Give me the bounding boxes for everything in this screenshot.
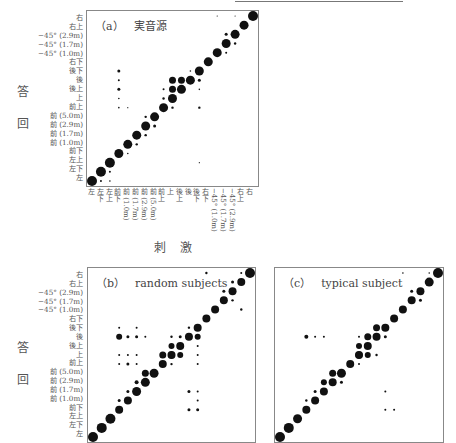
y-tick-label: 前上 [69, 103, 83, 110]
x-tick-label: 左 [87, 188, 94, 195]
x-tick-label: 前 (5.0m) [149, 188, 156, 220]
y-tick-label: 左 [76, 430, 83, 437]
y-tick-label: 左下 [69, 421, 83, 428]
panel-b-random-subjects: （b）random subjects [87, 267, 256, 443]
x-tick-label: 上 [166, 188, 173, 195]
x-tick-label: 右 [245, 188, 252, 195]
y-tick-label: 後 [76, 333, 83, 340]
x-tick-label: −45° (1.7m) [219, 188, 226, 232]
y-tick-label: 左上 [69, 156, 83, 163]
y-tick-label: −45° (1.0m) [38, 306, 83, 313]
y-tick-label: 右 [76, 14, 83, 21]
y-tick-label: 後下 [69, 67, 83, 74]
y-tick-label: 前 (2.9m) [50, 121, 83, 128]
bubble-matrix [88, 268, 255, 442]
y-tick-label: 後 [76, 76, 83, 83]
x-tick-label: 前 (1.7m) [131, 188, 138, 220]
y-tick-label: 左上 [69, 412, 83, 419]
panel-a-real-source: （a）実音源 [86, 10, 259, 187]
panel-c-typical-subject: （c）typical subject [274, 267, 444, 443]
y-tick-label: 前 (2.9m) [50, 377, 83, 384]
y-tick-label: 前 (5.0m) [50, 368, 83, 375]
y-tick-label: 右下 [69, 58, 83, 65]
y-axis-labels-b: 右右上−45° (2.9m)−45° (1.7m)−45° (1.0m)右下後下… [0, 267, 83, 443]
x-tick-label: 前 (2.9m) [140, 188, 147, 220]
x-tick-label: 前上 [157, 188, 164, 202]
y-tick-label: 前 (1.7m) [50, 386, 83, 393]
y-tick-label: 前下 [69, 404, 83, 411]
y-tick-label: 右下 [69, 315, 83, 322]
x-tick-label: 右下 [201, 188, 208, 202]
y-tick-label: −45° (1.0m) [38, 50, 83, 57]
y-tick-label: −45° (2.9m) [38, 32, 83, 39]
x-tick-label: 左下 [96, 188, 103, 202]
y-tick-label: −45° (1.7m) [38, 41, 83, 48]
y-axis-labels-a: 右右上−45° (2.9m)−45° (1.7m)−45° (1.0m)右下後下… [0, 10, 83, 186]
y-tick-label: 後下 [69, 324, 83, 331]
y-tick-label: 後上 [69, 342, 83, 349]
y-tick-label: 上 [76, 94, 83, 101]
y-tick-label: 前上 [69, 359, 83, 366]
y-tick-label: 前 (5.0m) [50, 112, 83, 119]
y-tick-label: 右上 [69, 23, 83, 30]
top-rule [235, 1, 403, 2]
y-tick-label: 前 (1.0m) [50, 139, 83, 146]
x-tick-label: 後 [184, 188, 191, 195]
y-tick-label: 上 [76, 351, 83, 358]
y-tick-label: 後上 [69, 85, 83, 92]
bubble-matrix [275, 268, 443, 442]
x-tick-label: 右上 [236, 188, 243, 202]
x-tick-label: −45° (1.0m) [210, 188, 217, 232]
x-tick-label: 後下 [192, 188, 199, 202]
bubble-matrix [87, 11, 258, 186]
x-axis-title-a: 刺激 [154, 238, 206, 255]
y-tick-label: −45° (1.7m) [38, 298, 83, 305]
x-tick-label: 前 (1.0m) [122, 188, 129, 220]
x-tick-label: −45° (2.9m) [228, 188, 235, 232]
y-tick-label: −45° (2.9m) [38, 289, 83, 296]
y-tick-label: 前下 [69, 147, 83, 154]
y-tick-label: 右上 [69, 280, 83, 287]
y-tick-label: 前 (1.7m) [50, 130, 83, 137]
y-tick-label: 左 [76, 174, 83, 181]
y-tick-label: 前 (1.0m) [50, 395, 83, 402]
x-tick-label: 左上 [105, 188, 112, 202]
x-tick-label: 後上 [175, 188, 182, 202]
x-tick-label: 前下 [113, 188, 120, 202]
y-tick-label: 左下 [69, 165, 83, 172]
y-tick-label: 右 [76, 271, 83, 278]
x-axis-labels-a: 左左下左上前下前 (1.0m)前 (1.7m)前 (2.9m)前 (5.0m)前… [86, 188, 259, 238]
